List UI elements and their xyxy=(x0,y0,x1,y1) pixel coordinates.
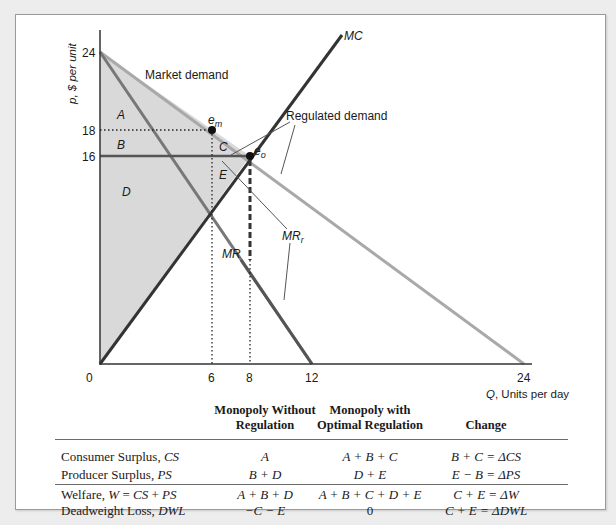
area-e-label: E xyxy=(219,168,228,182)
mr-label: MR xyxy=(222,247,241,261)
x-tick-24: 24 xyxy=(517,371,531,385)
x-tick-8: 8 xyxy=(246,371,253,385)
x-tick-6: 6 xyxy=(208,371,215,385)
mr-r-leader-2 xyxy=(284,243,290,300)
market-demand-label: Market demand xyxy=(145,68,228,82)
em-label: em xyxy=(208,113,223,129)
regulated-demand-leader-2 xyxy=(281,125,295,174)
area-d-label: D xyxy=(122,185,131,199)
x-axis-label: Q, Units per day xyxy=(486,388,569,400)
eo-label: eo xyxy=(254,144,266,160)
y-axis-label: p, $ per unit xyxy=(66,42,78,105)
y-tick-24: 24 xyxy=(82,46,96,60)
mr-r-label: MRr xyxy=(282,229,305,245)
monopoly-regulation-chart: p, $ per unit 24 18 16 0 6 8 12 24 Q, Un… xyxy=(0,0,616,525)
mr-r-leader-1 xyxy=(222,161,287,229)
eo-point xyxy=(246,152,254,160)
mr-r-lower-segment xyxy=(241,260,312,364)
area-c-label: C xyxy=(219,140,228,154)
y-tick-18: 18 xyxy=(82,124,96,138)
y-tick-16: 16 xyxy=(82,150,96,164)
x-tick-12: 12 xyxy=(305,371,319,385)
area-a-label: A xyxy=(116,108,125,122)
area-b-label: B xyxy=(117,138,125,152)
regulated-demand-label: Regulated demand xyxy=(286,109,387,123)
mc-label: MC xyxy=(344,29,363,43)
x-tick-0: 0 xyxy=(86,371,93,385)
surplus-shaded-area xyxy=(100,52,250,364)
